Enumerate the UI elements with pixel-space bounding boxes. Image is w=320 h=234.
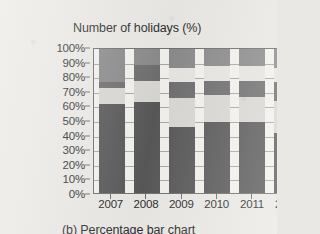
- bar-segment-2011-segment-3: [239, 81, 265, 97]
- bar-segment-2009-segment-1: [169, 127, 195, 193]
- bar-segment-2010-segment-2: [204, 95, 230, 122]
- y-axis-tick-label: 50%: [63, 115, 85, 127]
- y-axis-tick-mark: [85, 62, 90, 63]
- bar-segment-2008-segment-1: [134, 102, 160, 193]
- x-axis-tick-label-2007: 2007: [98, 198, 124, 210]
- bar-segment-2009-segment-2: [169, 98, 195, 127]
- chart-caption: (b) Percentage bar chart: [62, 223, 195, 234]
- x-axis-tick-label-2008: 2008: [133, 198, 159, 210]
- y-axis-tick-mark: [85, 77, 90, 78]
- bar-segment-2008-segment-5: [134, 49, 160, 65]
- x-axis-tick-label-2010: 2010: [204, 198, 230, 210]
- bar-stack-2007: [99, 49, 125, 193]
- y-axis-tick-mark: [85, 194, 90, 195]
- y-axis-tick-label: 100%: [56, 42, 85, 54]
- y-axis-tick-mark: [85, 106, 90, 107]
- y-axis-tick-label: 20%: [63, 159, 85, 171]
- plot-area: [93, 48, 277, 194]
- bar-segment-2007-segment-1: [99, 104, 125, 193]
- bar-segment-2011-segment-1: [239, 122, 265, 193]
- bar-segment-2010-segment-4: [204, 66, 230, 80]
- bar-segment-2011-segment-2: [239, 97, 265, 123]
- y-axis-tick-mark: [85, 179, 90, 180]
- bar-segment-2012-segment-2: [274, 101, 278, 133]
- y-axis-tick-label: 30%: [63, 144, 85, 156]
- y-axis-tick-label: 80%: [63, 71, 85, 83]
- x-axis: 200720082009201020112012: [93, 198, 277, 216]
- y-axis-tick-label: 10%: [63, 173, 85, 185]
- bar-segment-2009-segment-5: [169, 49, 195, 68]
- chart-title: Number of holidays (%): [73, 21, 201, 35]
- x-axis-tick-label-2009: 2009: [168, 198, 194, 210]
- y-axis-tick-label: 40%: [63, 130, 85, 142]
- y-axis-tick-label: 60%: [63, 100, 85, 112]
- bar-segment-2007-segment-2: [99, 88, 125, 104]
- y-axis-tick-mark: [85, 91, 90, 92]
- bar-segment-2009-segment-4: [169, 68, 195, 82]
- bar-segment-2010-segment-5: [204, 49, 230, 66]
- bar-segment-2008-segment-3: [134, 65, 160, 81]
- y-axis-tick-mark: [85, 121, 90, 122]
- bar-stack-2009: [169, 49, 195, 193]
- y-axis-tick-label: 0%: [69, 188, 85, 200]
- bar-segment-2007-segment-5: [99, 49, 125, 82]
- bar-segment-2012-segment-5: [274, 49, 278, 68]
- bar-stack-2008: [134, 49, 160, 193]
- bars-layer: [94, 49, 277, 193]
- bar-stack-2012: [274, 49, 278, 193]
- bar-stack-2011: [239, 49, 265, 193]
- y-axis-tick-label: 90%: [63, 57, 85, 69]
- y-axis-tick-mark: [85, 135, 90, 136]
- bar-segment-2010-segment-3: [204, 81, 230, 95]
- x-axis-tick-label-2011: 2011: [239, 198, 265, 210]
- y-axis-tick-mark: [85, 48, 90, 49]
- percentage-bar-chart-figure: Number of holidays (%) 0%10%20%30%40%50%…: [40, 16, 237, 218]
- bar-segment-2010-segment-1: [204, 122, 230, 193]
- bar-segment-2009-segment-3: [169, 82, 195, 98]
- bar-segment-2011-segment-4: [239, 66, 265, 80]
- y-axis-tick-mark: [85, 150, 90, 151]
- bar-segment-2012-segment-3: [274, 82, 278, 101]
- y-axis: 0%10%20%30%40%50%60%70%80%90%100%: [40, 48, 90, 194]
- bar-segment-2012-segment-1: [274, 133, 278, 193]
- y-axis-tick-label: 70%: [63, 86, 85, 98]
- x-axis-tick-label-2012: 2012: [274, 198, 277, 210]
- y-axis-tick-mark: [85, 164, 90, 165]
- bar-stack-2010: [204, 49, 230, 193]
- bar-segment-2008-segment-2: [134, 81, 160, 103]
- bar-segment-2012-segment-4: [274, 68, 278, 82]
- bar-segment-2011-segment-5: [239, 49, 265, 66]
